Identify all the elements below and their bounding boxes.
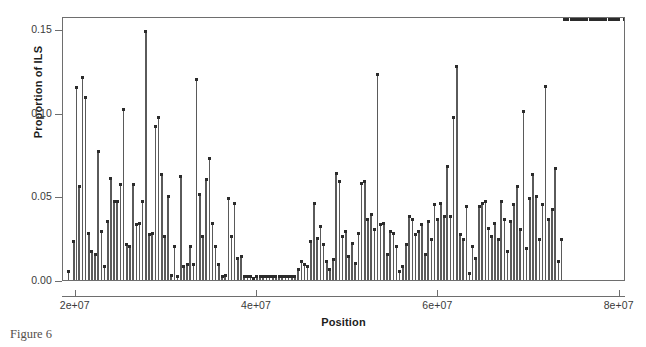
stem-bar — [120, 185, 122, 280]
stem-marker-dot — [427, 220, 430, 223]
stem-bar — [174, 247, 176, 280]
stem-bar — [73, 242, 75, 280]
stem-marker-dot — [417, 230, 420, 233]
stem-marker-dot — [433, 203, 436, 206]
stem-marker-dot — [354, 262, 357, 265]
stem-bar — [519, 230, 521, 280]
stem-bar — [142, 201, 144, 280]
stem-marker-dot — [328, 268, 331, 271]
stem-bar — [329, 270, 331, 280]
stem-marker-dot — [208, 157, 211, 160]
stem-marker-dot — [398, 270, 401, 273]
stem-bar — [551, 210, 553, 280]
stem-marker-dot — [474, 257, 477, 260]
stem-marker-dot — [430, 238, 433, 241]
stem-bar — [532, 175, 534, 280]
x-axis-tick-label: 8e+07 — [579, 299, 646, 311]
stem-marker-dot — [176, 275, 179, 278]
stem-bar — [393, 233, 395, 280]
stem-marker-dot — [509, 220, 512, 223]
y-axis-tick — [55, 30, 62, 31]
stem-marker-dot — [201, 235, 204, 238]
stem-marker-dot — [67, 270, 70, 273]
stem-bar — [116, 201, 118, 280]
stem-bar — [504, 220, 506, 280]
y-axis-tick-label: 0.00 — [0, 274, 52, 286]
x-axis-tick-label: 6e+07 — [397, 299, 477, 311]
stem-marker-dot — [487, 227, 490, 230]
stem-marker-dot — [198, 193, 201, 196]
stem-bar — [123, 110, 125, 280]
stem-bar — [332, 260, 334, 280]
stem-bar — [408, 217, 410, 280]
stem-marker-dot — [411, 218, 414, 221]
stem-marker-dot — [538, 238, 541, 241]
stem-bar — [386, 255, 388, 280]
stem-bar — [539, 240, 541, 280]
stem-marker-dot — [306, 265, 309, 268]
stem-marker-dot — [366, 218, 369, 221]
stem-bar — [228, 198, 230, 280]
stem-bar — [76, 88, 78, 280]
stem-bar — [161, 175, 163, 280]
stem-marker-dot — [192, 263, 195, 266]
stem-marker-dot — [173, 245, 176, 248]
stem-bar — [345, 232, 347, 280]
stem-marker-dot — [103, 265, 106, 268]
stem-marker-dot — [373, 228, 376, 231]
stem-bar — [113, 201, 115, 280]
stem-bar — [456, 66, 458, 280]
stem-marker-dot — [141, 200, 144, 203]
stem-bar — [164, 237, 166, 280]
stem-marker-dot — [224, 274, 227, 277]
stem-bar — [183, 267, 185, 280]
stem-bar — [450, 217, 452, 280]
y-axis-tick-label: 0.15 — [0, 23, 52, 35]
y-axis-tick — [55, 197, 62, 198]
stem-bar — [212, 223, 214, 280]
y-axis-tick-label: 0.10 — [0, 107, 52, 119]
stem-bar — [180, 176, 182, 280]
stem-marker-dot — [344, 230, 347, 233]
stem-bar — [240, 257, 242, 280]
stem-marker-dot — [560, 238, 563, 241]
stem-marker-dot — [357, 232, 360, 235]
stem-bar — [523, 111, 525, 280]
plot-area — [63, 18, 624, 280]
stem-bar — [326, 262, 328, 280]
stem-bar — [351, 243, 353, 280]
stem-bar — [313, 203, 315, 280]
stem-bar — [513, 205, 515, 280]
stem-bar — [478, 206, 480, 280]
stem-bar — [545, 86, 547, 280]
stem-marker-dot — [97, 150, 100, 153]
stem-bar — [453, 118, 455, 280]
stem-marker-dot — [471, 245, 474, 248]
stem-bar — [88, 233, 90, 280]
stem-marker-dot — [128, 245, 131, 248]
stem-marker-dot — [100, 230, 103, 233]
stem-bar — [488, 228, 490, 280]
stem-marker-dot — [382, 222, 385, 225]
y-axis-tick-label: 0.05 — [0, 190, 52, 202]
stem-bar — [155, 126, 157, 280]
stem-marker-dot — [94, 253, 97, 256]
stem-marker-dot — [478, 205, 481, 208]
stem-bar — [316, 238, 318, 280]
stem-bar — [97, 151, 99, 280]
stem-bar — [132, 185, 134, 280]
stem-marker-dot — [446, 165, 449, 168]
stem-bar — [380, 225, 382, 280]
stem-bar — [151, 233, 153, 280]
stem-marker-dot — [370, 213, 373, 216]
stem-marker-dot — [227, 197, 230, 200]
stem-bar — [510, 222, 512, 280]
stem-marker-dot — [78, 185, 81, 188]
stem-marker-dot — [293, 275, 296, 278]
stem-bar — [101, 232, 103, 280]
stem-marker-dot — [119, 183, 122, 186]
stem-bar — [215, 247, 217, 280]
x-axis-tick-label: 2e+07 — [35, 299, 115, 311]
stem-marker-dot — [233, 202, 236, 205]
stem-bar — [389, 232, 391, 280]
